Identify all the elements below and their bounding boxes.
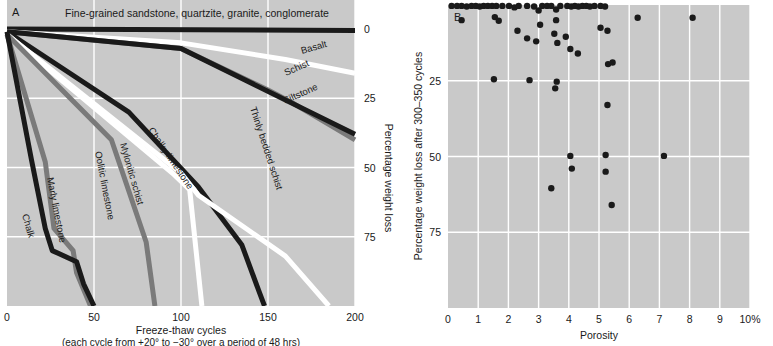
- scatter-point: [602, 168, 608, 174]
- scatter-point: [493, 3, 499, 9]
- x-tick-label: 4: [566, 313, 572, 325]
- x-tick-label: 200: [346, 311, 364, 323]
- x-tick-label: 10%: [739, 313, 760, 325]
- x-tick-label: 5: [596, 313, 602, 325]
- x-axis-a: 050100150200Freeze-thaw cycles(each cycl…: [4, 311, 364, 346]
- y-tick-label: 25: [429, 75, 441, 87]
- scatter-point: [526, 77, 532, 83]
- y-axis-a: 0255075Percentage weight loss: [364, 23, 395, 243]
- y-tick-label: 0: [364, 23, 370, 35]
- scatter-point: [537, 22, 543, 28]
- y-axis-title: Percentage weight loss: [383, 124, 395, 233]
- scatter-point: [567, 46, 573, 52]
- scatter-point: [548, 185, 554, 191]
- scatter-point: [499, 3, 505, 9]
- x-tick-label: 50: [88, 311, 100, 323]
- scatter-point: [533, 38, 539, 44]
- scatter-point: [496, 18, 502, 24]
- x-axis-subtitle: (each cycle from +20° to −30° over a per…: [62, 337, 300, 346]
- x-tick-label: 7: [656, 313, 662, 325]
- scatter-point: [553, 17, 559, 23]
- x-axis-title: Porosity: [580, 329, 619, 341]
- series-line: [7, 29, 355, 30]
- scatter-point: [524, 35, 530, 41]
- x-tick-label: 8: [687, 313, 693, 325]
- y-tick-label: 50: [429, 151, 441, 163]
- y-axis-b: 255075Percentage weight loss after 300–3…: [412, 52, 441, 260]
- scatter-point: [557, 3, 563, 9]
- scatter-point: [602, 3, 608, 9]
- x-tick-label: 6: [626, 313, 632, 325]
- y-tick-label: 75: [364, 231, 376, 243]
- scatter-point: [608, 202, 614, 208]
- scatter-point: [563, 34, 569, 40]
- panel-a: BasaltSchistSiltstoneThinly bedded schis…: [0, 0, 400, 346]
- x-tick-label: 0: [4, 311, 10, 323]
- scatter-point: [524, 3, 530, 9]
- x-tick-label: 1: [475, 313, 481, 325]
- y-axis-title: Percentage weight loss after 300–350 cyc…: [412, 52, 424, 260]
- scatter-point: [689, 15, 695, 21]
- scatter-point: [661, 153, 667, 159]
- scatter-point: [515, 3, 521, 9]
- x-tick-label: 150: [259, 311, 277, 323]
- scatter-point: [609, 59, 615, 65]
- panel-b: B255075Percentage weight loss after 300–…: [400, 0, 773, 346]
- y-tick-label: 50: [364, 162, 376, 174]
- x-tick-label: 100: [172, 311, 190, 323]
- scatter-point: [597, 25, 603, 31]
- x-tick-label: 3: [536, 313, 542, 325]
- x-axis-title: Freeze-thaw cycles: [136, 324, 226, 336]
- x-tick-label: 2: [505, 313, 511, 325]
- scatter-point: [602, 152, 608, 158]
- scatter-point: [554, 40, 560, 46]
- figure-root: BasaltSchistSiltstoneThinly bedded schis…: [0, 0, 773, 346]
- scatter-point: [554, 78, 560, 84]
- scatter-point: [567, 153, 573, 159]
- top-series-label: Fine-grained sandstone, quartzite, grani…: [65, 7, 329, 19]
- scatter-point: [551, 31, 557, 37]
- scatter-point: [491, 76, 497, 82]
- scatter-point: [591, 3, 597, 9]
- x-tick-label: 9: [717, 313, 723, 325]
- panel-b-svg: B255075Percentage weight loss after 300–…: [400, 0, 773, 346]
- scatter-point: [506, 3, 512, 9]
- x-tick-label: 0: [445, 313, 451, 325]
- y-tick-label: 25: [364, 92, 376, 104]
- scatter-point: [604, 28, 610, 34]
- scatter-point: [634, 15, 640, 21]
- panel-label-b: B: [454, 11, 461, 23]
- scatter-point: [604, 102, 610, 108]
- panel-a-svg: BasaltSchistSiltstoneThinly bedded schis…: [0, 0, 400, 346]
- scatter-point: [575, 50, 581, 56]
- y-tick-label: 75: [429, 226, 441, 238]
- panel-label-a: A: [12, 6, 20, 18]
- scatter-point: [552, 85, 558, 91]
- scatter-point: [569, 165, 575, 171]
- x-axis-b: 012345678910%Porosity: [445, 313, 760, 341]
- scatter-point: [514, 28, 520, 34]
